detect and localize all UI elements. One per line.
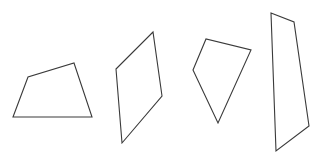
shapes-canvas xyxy=(0,0,319,166)
quadrilateral-3 xyxy=(193,39,251,123)
quadrilateral-1 xyxy=(13,63,92,117)
quadrilateral-4 xyxy=(271,13,309,151)
quadrilateral-2 xyxy=(116,32,162,143)
